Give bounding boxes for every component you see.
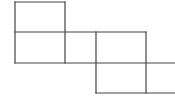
grid-diagram xyxy=(0,0,175,101)
